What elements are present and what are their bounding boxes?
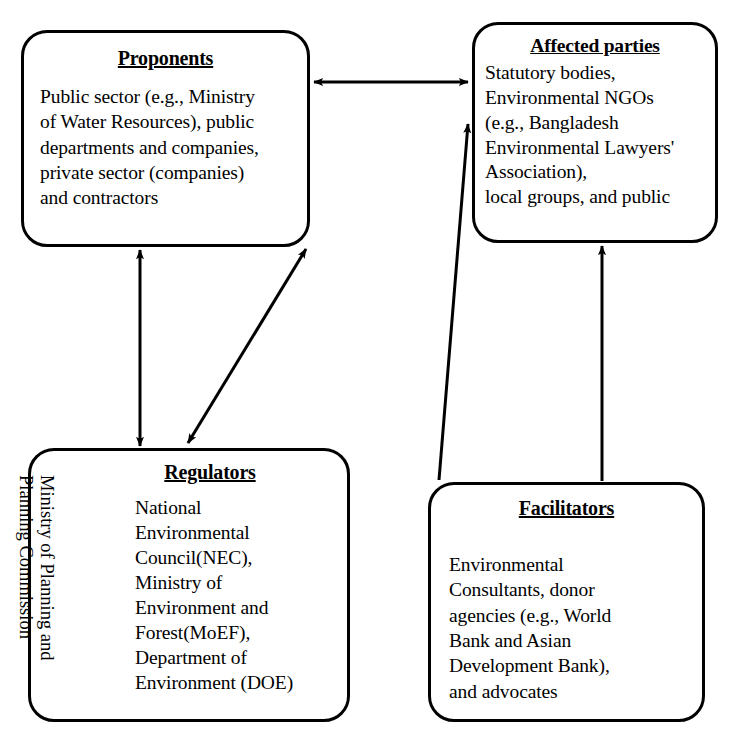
node-regulators-body: National Environmental Council(NEC), Min…	[135, 496, 347, 696]
node-regulators-inner: Ministry of Planning and Planning Commis…	[31, 461, 347, 729]
node-proponents-title: Proponents	[24, 47, 307, 70]
node-affected-parties-body: Statutory bodies, Environmental NGOs (e.…	[485, 61, 715, 210]
node-affected-parties-title: Affected parties	[475, 35, 715, 57]
connector-facilitators-affected-diagonal	[439, 124, 468, 480]
node-facilitators-body: Environmental Consultants, donor agencie…	[449, 552, 702, 704]
node-regulators-side-label: Ministry of Planning and Planning Commis…	[17, 475, 57, 715]
node-regulators-title: Regulators	[73, 461, 347, 484]
node-affected-parties[interactable]: Affected parties Statutory bodies, Envir…	[472, 22, 718, 243]
node-regulators[interactable]: Ministry of Planning and Planning Commis…	[28, 448, 350, 722]
node-affected-parties-inner: Affected parties Statutory bodies, Envir…	[475, 35, 715, 250]
node-proponents-body: Public sector (e.g., Ministry of Water R…	[40, 84, 307, 211]
node-facilitators-title: Facilitators	[431, 497, 702, 520]
node-facilitators-inner: Facilitators Environmental Consultants, …	[431, 497, 702, 731]
node-proponents[interactable]: Proponents Public sector (e.g., Ministry…	[21, 30, 310, 247]
node-proponents-inner: Proponents Public sector (e.g., Ministry…	[24, 47, 307, 258]
connector-regulators-proponents-diagonal	[188, 249, 306, 443]
node-facilitators[interactable]: Facilitators Environmental Consultants, …	[428, 482, 705, 722]
diagram-canvas: Proponents Public sector (e.g., Ministry…	[0, 0, 733, 735]
